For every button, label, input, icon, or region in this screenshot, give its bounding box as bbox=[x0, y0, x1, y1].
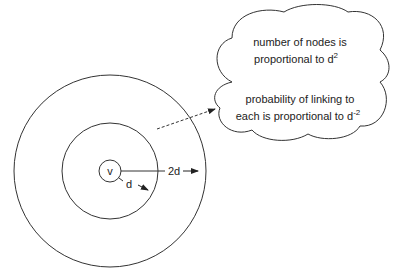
tick-d bbox=[119, 178, 123, 181]
callout-text-line4: each is proportional to d-2 bbox=[236, 108, 361, 122]
inner-radius-label: d bbox=[126, 178, 132, 190]
distance-rings-diagram: v 2d d number of nodes is proportional t… bbox=[0, 0, 394, 277]
outer-radius-label: 2d bbox=[168, 165, 180, 177]
callout-text-line3: probability of linking to bbox=[246, 93, 355, 105]
callout-text-line1: number of nodes is bbox=[253, 36, 347, 48]
center-node-label: v bbox=[107, 165, 113, 177]
callout-text-line2: proportional to d2 bbox=[254, 51, 339, 65]
arrow-d bbox=[138, 185, 148, 190]
